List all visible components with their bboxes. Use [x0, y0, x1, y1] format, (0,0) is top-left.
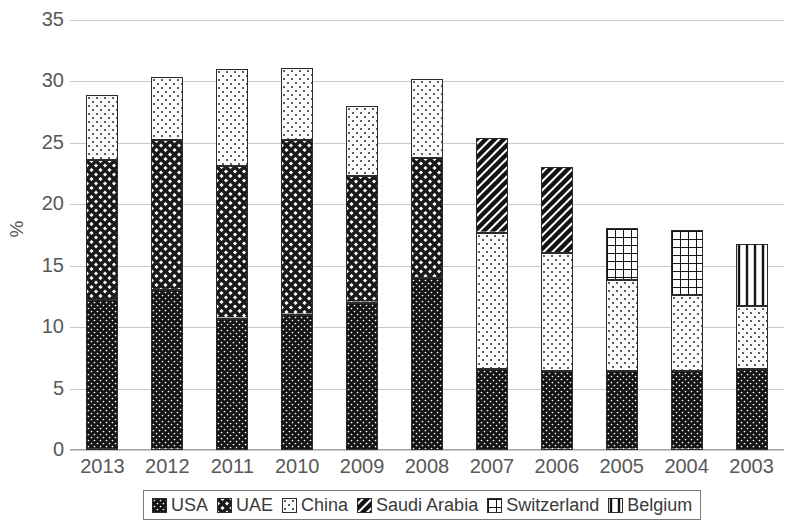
x-tick-label: 2005 — [587, 455, 657, 478]
legend-label: Belgium — [627, 496, 692, 514]
gridline — [70, 450, 784, 451]
bar-segment[interactable] — [411, 158, 443, 278]
bar-segment[interactable] — [606, 280, 638, 371]
legend-item[interactable]: Belgium — [608, 496, 692, 514]
x-tick-label: 2007 — [457, 455, 527, 478]
bar-segment[interactable] — [86, 160, 118, 300]
bar-segment[interactable] — [411, 79, 443, 158]
y-tick-label: 10 — [20, 316, 64, 336]
bar-segment[interactable] — [671, 230, 703, 295]
y-tick-label: 15 — [20, 255, 64, 275]
gridline — [70, 20, 784, 21]
bar-segment[interactable] — [606, 228, 638, 281]
bar-segment[interactable] — [541, 253, 573, 371]
y-tick-label: 30 — [20, 70, 64, 90]
legend-label: UAE — [236, 496, 273, 514]
legend-swatch-icon — [217, 498, 232, 513]
y-tick-label: 25 — [20, 132, 64, 152]
y-tick-label: 0 — [20, 439, 64, 459]
x-tick-label: 2010 — [262, 455, 332, 478]
x-tick-label: 2012 — [132, 455, 202, 478]
chart-legend: USAUAEChinaSaudi ArabiaSwitzerlandBelgiu… — [143, 490, 701, 520]
bar-segment[interactable] — [671, 371, 703, 450]
x-tick-label: 2003 — [717, 455, 787, 478]
bar-segment[interactable] — [346, 303, 378, 450]
bar-segment[interactable] — [216, 166, 248, 318]
bar-segment[interactable] — [541, 167, 573, 253]
x-tick-label: 2004 — [652, 455, 722, 478]
legend-label: China — [301, 496, 348, 514]
bar-segment[interactable] — [671, 295, 703, 371]
bar-segment[interactable] — [476, 233, 508, 369]
legend-item[interactable]: USA — [152, 496, 208, 514]
bar-segment[interactable] — [151, 290, 183, 450]
y-tick-label: 35 — [20, 9, 64, 29]
bar-segment[interactable] — [151, 77, 183, 141]
bar-segment[interactable] — [281, 68, 313, 140]
y-axis-title: % — [6, 214, 28, 244]
legend-swatch-icon — [487, 498, 502, 513]
x-tick-label: 2006 — [522, 455, 592, 478]
legend-item[interactable]: UAE — [217, 496, 273, 514]
legend-swatch-icon — [608, 498, 623, 513]
bar-segment[interactable] — [216, 319, 248, 450]
legend-item[interactable]: Saudi Arabia — [357, 496, 478, 514]
bar-segment[interactable] — [736, 306, 768, 369]
legend-label: Switzerland — [506, 496, 599, 514]
x-tick-label: 2011 — [197, 455, 267, 478]
legend-swatch-icon — [357, 498, 372, 513]
bar-segment[interactable] — [346, 176, 378, 303]
bar-segment[interactable] — [541, 371, 573, 450]
bar-segment[interactable] — [86, 95, 118, 160]
bar-segment[interactable] — [281, 315, 313, 450]
legend-label: Saudi Arabia — [376, 496, 478, 514]
y-tick-label: 20 — [20, 193, 64, 213]
bar-segment[interactable] — [216, 69, 248, 166]
bar-segment[interactable] — [476, 138, 508, 233]
bar-segment[interactable] — [281, 140, 313, 314]
legend-item[interactable]: Switzerland — [487, 496, 599, 514]
legend-swatch-icon — [152, 498, 167, 513]
bar-segment[interactable] — [86, 300, 118, 450]
x-tick-label: 2008 — [392, 455, 462, 478]
legend-label: USA — [171, 496, 208, 514]
bar-segment[interactable] — [476, 369, 508, 450]
bar-segment[interactable] — [736, 369, 768, 450]
bar-segment[interactable] — [606, 371, 638, 450]
bar-segment[interactable] — [346, 106, 378, 176]
x-tick-label: 2009 — [327, 455, 397, 478]
legend-item[interactable]: China — [282, 496, 348, 514]
bar-segment[interactable] — [411, 278, 443, 450]
y-tick-label: 5 — [20, 378, 64, 398]
stacked-bar-chart: % 35302520151050 20132012201120102009200… — [0, 0, 794, 532]
legend-swatch-icon — [282, 498, 297, 513]
x-tick-label: 2013 — [67, 455, 137, 478]
bar-segment[interactable] — [736, 244, 768, 307]
plot-area — [70, 20, 784, 450]
bar-segment[interactable] — [151, 140, 183, 290]
